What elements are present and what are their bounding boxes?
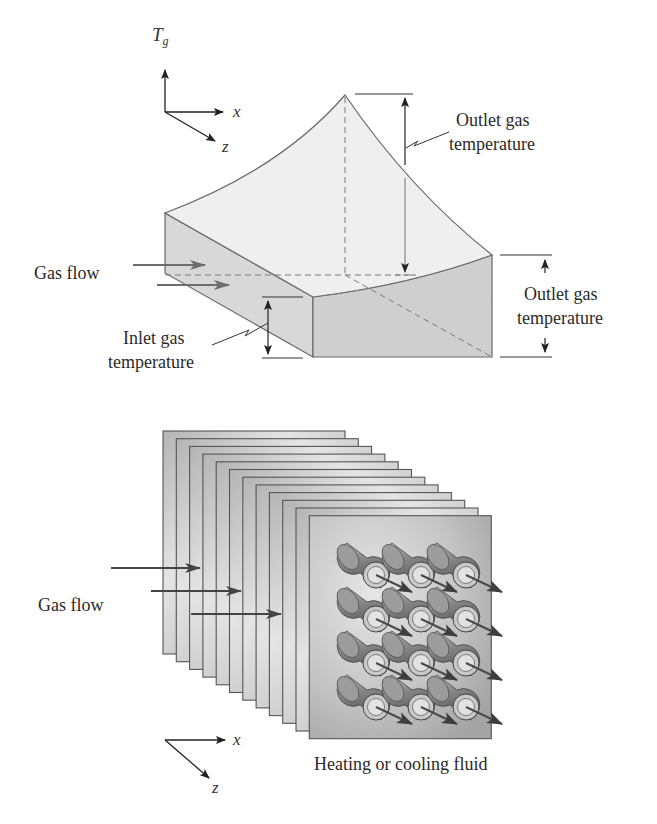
axis-label-z-bottom: z bbox=[212, 778, 219, 798]
axes-indicator-bottom bbox=[165, 740, 225, 778]
axis-tg-subscript: g bbox=[163, 34, 169, 48]
outlet-peak-label-line2: temperature bbox=[449, 134, 535, 154]
axis-label-z: z bbox=[222, 137, 229, 157]
outlet-side-label-line2: temperature bbox=[517, 308, 603, 328]
fluid-label: Heating or cooling fluid bbox=[314, 754, 487, 774]
axis-label-tg: Tg bbox=[152, 24, 169, 49]
plate-heat-exchanger-diagram bbox=[111, 431, 502, 778]
gas-flow-label-top: Gas flow bbox=[34, 263, 100, 283]
outlet-side-label-line1: Outlet gas bbox=[524, 284, 598, 304]
outlet-side-dimension bbox=[500, 255, 552, 357]
axis-tg-main: T bbox=[152, 24, 163, 45]
inlet-label-line1: Inlet gas bbox=[123, 328, 184, 348]
gas-flow-label-bottom: Gas flow bbox=[38, 595, 104, 615]
inlet-label-line2: temperature bbox=[108, 352, 194, 372]
axes-indicator bbox=[165, 70, 223, 141]
outlet-peak-label-line1: Outlet gas bbox=[456, 110, 530, 130]
axis-label-x: x bbox=[233, 102, 241, 122]
heat-exchanger-figure bbox=[0, 0, 657, 824]
axis-label-x-bottom: x bbox=[233, 730, 241, 750]
